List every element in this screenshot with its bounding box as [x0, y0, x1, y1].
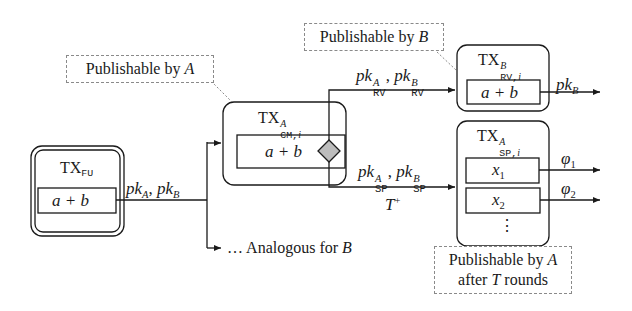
edge-label-phi2: φ2: [561, 180, 576, 200]
note-publishable-by-b: Publishable by B: [304, 23, 444, 51]
analogous-for-b-label: … Analogous for B: [227, 240, 352, 256]
edge-label-pk-rv: pkARV, pkBRV: [356, 67, 424, 99]
tx-rv-output: a + b: [481, 84, 518, 101]
tx-sp-more-outputs: ⋮: [499, 218, 515, 234]
edge-label-pkb: pkB: [556, 76, 578, 96]
note-publishable-by-a-after-t-rounds: Publishable by A after T rounds: [434, 246, 572, 294]
tx-cm-title: TXACM,i: [258, 110, 301, 141]
split-diamond-icon: [318, 140, 340, 162]
edge-label-pk-sp: pkASP, pkBSP: [358, 163, 426, 195]
tx-fu-output: a + b: [52, 192, 89, 209]
edge-label-pka-pkb: pkA, pkB: [126, 180, 179, 200]
tx-fu-title: TXFU: [60, 160, 93, 179]
tx-sp-title: TXASP,i: [477, 128, 520, 159]
tx-sp-output-x2: x2: [492, 191, 505, 211]
edge-label-phi1: φ1: [561, 150, 576, 170]
note-publishable-by-a: Publishable by A: [66, 55, 214, 83]
tx-rv-title: TXBRV,i: [478, 52, 521, 83]
tx-cm-output: a + b: [265, 143, 302, 160]
timelock-label: T+: [385, 196, 400, 213]
tx-sp-output-x1: x1: [492, 161, 505, 181]
